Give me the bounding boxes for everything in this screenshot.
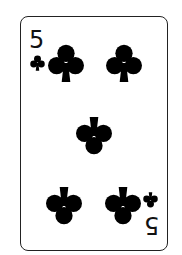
- index-rank-bottom: 5: [144, 213, 159, 237]
- playing-card-five-of-clubs[interactable]: 5 5: [20, 16, 168, 251]
- club-icon: [48, 43, 84, 83]
- club-icon: [143, 192, 158, 208]
- club-icon: [76, 116, 112, 156]
- club-icon: [30, 55, 45, 71]
- club-icon: [105, 186, 141, 226]
- club-icon: [46, 186, 82, 226]
- club-icon: [106, 43, 142, 83]
- index-rank-top: 5: [29, 28, 44, 52]
